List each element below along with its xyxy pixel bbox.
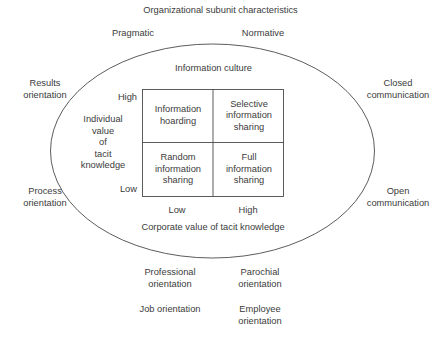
- label-normative: Normative: [218, 28, 308, 40]
- y-axis-high-tick: High: [75, 92, 137, 104]
- x-axis-low-tick: Low: [147, 205, 207, 217]
- label-job-orientation: Job orientation: [127, 304, 213, 316]
- matrix-cell-information-hoarding: Information hoarding: [143, 90, 213, 142]
- figure-title: Organizational subunit characteristics: [113, 5, 328, 17]
- label-open-communication: Open communication: [355, 186, 441, 209]
- label-parochial-orientation: Parochial orientation: [217, 267, 303, 290]
- diagram-canvas: Organizational subunit characteristics P…: [0, 0, 441, 342]
- y-axis-title: Individual value of tacit knowledge: [69, 114, 137, 172]
- matrix-cell-full-information-sharing: Full information sharing: [214, 143, 284, 196]
- matrix-cell-selective-information-sharing: Selective information sharing: [214, 90, 284, 142]
- label-employee-orientation: Employee orientation: [217, 304, 303, 327]
- label-pragmatic: Pragmatic: [88, 28, 178, 40]
- label-closed-communication: Closed communication: [355, 78, 441, 101]
- x-axis-high-tick: High: [218, 205, 278, 217]
- x-axis-title: Corporate value of tacit knowledge: [113, 222, 313, 234]
- label-professional-orientation: Professional orientation: [127, 267, 213, 290]
- y-axis-low-tick: Low: [75, 184, 137, 196]
- information-culture-title: Information culture: [143, 63, 284, 75]
- matrix-cell-random-information-sharing: Random information sharing: [143, 143, 213, 196]
